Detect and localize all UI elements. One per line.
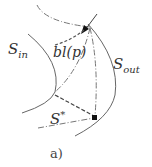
- bl-p-label: bl(p): [53, 45, 86, 59]
- bottom-point: [92, 115, 97, 120]
- diagram-canvas: [0, 0, 152, 167]
- s-in-label: Sin: [8, 42, 28, 60]
- top-dashdot-curve: [37, 5, 90, 27]
- diagonal-dashdot-line: [55, 28, 90, 92]
- s-star-dashdot-line: [38, 118, 94, 128]
- right-dashdot-line: [90, 28, 96, 116]
- s-star-label: S*: [50, 110, 65, 127]
- s-out-label: Sout: [113, 57, 140, 75]
- figure-caption: a): [50, 147, 63, 160]
- bl-dashed-curve: [55, 30, 84, 45]
